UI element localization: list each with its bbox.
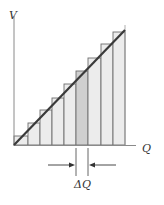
x-axis-label: Q: [142, 142, 151, 155]
bar-highlighted: [76, 71, 88, 145]
y-axis-label: V: [9, 9, 18, 22]
bar-8: [101, 44, 113, 145]
bar-7: [88, 58, 101, 145]
charge-voltage-diagram: V Q ΔQ: [0, 0, 164, 205]
arrow-right-icon: [48, 163, 75, 168]
bar-5: [64, 84, 76, 145]
bar-2: [28, 123, 40, 145]
arrow-left-icon: [89, 163, 116, 168]
delta-q-label: ΔQ: [73, 178, 91, 191]
bar-9: [113, 32, 125, 145]
